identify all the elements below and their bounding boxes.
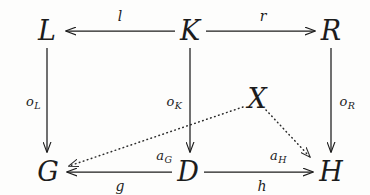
edge-label-r-text: r bbox=[260, 8, 267, 24]
edge-label-oK-text: o bbox=[167, 94, 175, 109]
edge-label-oL: oL bbox=[26, 95, 40, 108]
edge-label-aH-text: a bbox=[270, 148, 278, 163]
node-L: L bbox=[38, 17, 56, 44]
edge-label-oR-text: o bbox=[340, 94, 348, 109]
edge-label-oK: oK bbox=[167, 95, 182, 108]
edge-label-h: h bbox=[257, 179, 266, 193]
edge-label-oR-sub: R bbox=[348, 99, 355, 110]
edge-label-oL-sub: L bbox=[34, 99, 40, 110]
edge-label-aH: aH bbox=[270, 149, 286, 162]
edge-label-aG: aG bbox=[156, 149, 171, 162]
edge-label-oR: oR bbox=[340, 95, 355, 108]
node-H: H bbox=[319, 158, 343, 185]
edge-label-l-text: l bbox=[118, 8, 122, 24]
edge-label-aG-text: a bbox=[156, 148, 164, 163]
commutative-diagram: L K R G D H X l r oL oK oR g h aG aH bbox=[0, 0, 370, 195]
edge-label-g-text: g bbox=[116, 178, 125, 194]
edge-label-g: g bbox=[116, 179, 125, 193]
edge-label-aG-sub: G bbox=[164, 153, 172, 164]
node-R: R bbox=[321, 17, 341, 44]
edge-label-r: r bbox=[260, 9, 267, 23]
node-X: X bbox=[247, 85, 266, 112]
node-G: G bbox=[37, 158, 59, 185]
edge-label-oK-sub: K bbox=[175, 99, 182, 110]
edge-label-aH-sub: H bbox=[278, 153, 286, 164]
edge-label-h-text: h bbox=[257, 178, 266, 194]
edge-label-l: l bbox=[118, 9, 122, 23]
edge-label-oL-text: o bbox=[26, 94, 34, 109]
node-D: D bbox=[177, 158, 199, 185]
node-K: K bbox=[180, 17, 200, 44]
